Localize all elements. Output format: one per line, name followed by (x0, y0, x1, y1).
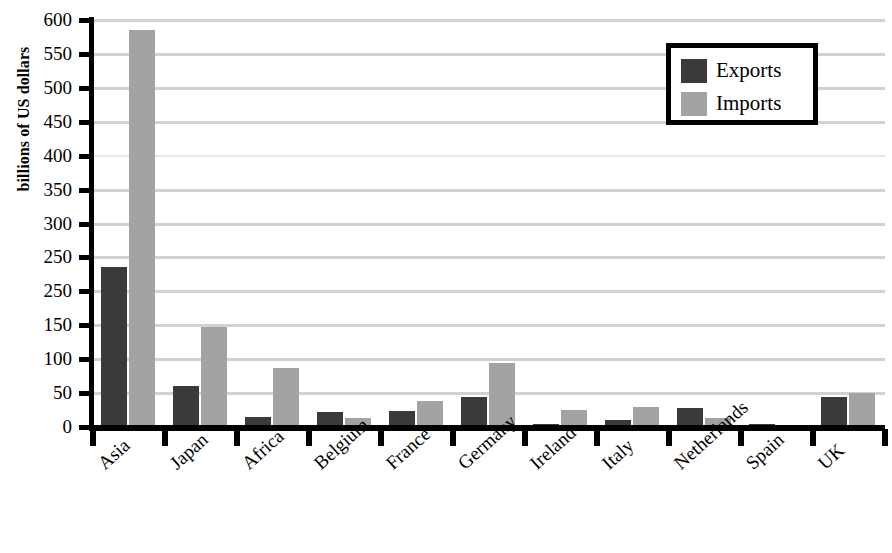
y-axis-tick-label: 500 (14, 78, 72, 97)
y-axis-tick-label: 350 (14, 180, 72, 199)
x-axis-tick (234, 429, 240, 446)
legend-label-imports: Imports (716, 93, 781, 114)
y-axis-tick-label: 100 (14, 349, 72, 368)
x-axis-tick (306, 429, 312, 446)
bar-asia-exports (101, 267, 127, 427)
x-axis-tick (810, 429, 816, 446)
x-axis-label-spain: Spain (742, 429, 789, 474)
bar-group (165, 20, 237, 427)
legend-swatch-exports-icon (681, 59, 707, 83)
x-axis-tick (594, 429, 600, 446)
bar-france-imports (417, 401, 443, 427)
bar-group (309, 20, 381, 427)
x-axis-tick (378, 429, 384, 446)
x-axis-tick (666, 429, 672, 446)
bar-germany-exports (461, 397, 487, 427)
x-axis-tick (90, 429, 96, 446)
y-axis-tick-label: 250 (14, 281, 72, 300)
x-axis-line (89, 425, 885, 431)
y-axis-tick-label: 450 (14, 112, 72, 131)
x-axis-tick (882, 429, 888, 446)
x-axis-tick (738, 429, 744, 446)
bar-group (453, 20, 525, 427)
bar-italy-imports (633, 407, 659, 427)
x-axis-label-italy: Italy (598, 435, 639, 475)
bar-group (525, 20, 597, 427)
legend-label-exports: Exports (716, 60, 781, 81)
y-axis-tick-label: 0 (14, 417, 72, 436)
y-axis-line (89, 17, 94, 430)
bar-group (381, 20, 453, 427)
x-axis-label-africa: Africa (238, 425, 289, 474)
y-axis-tick-label: 400 (14, 146, 72, 165)
x-axis-label-uk: UK (814, 439, 849, 474)
x-axis-tick (450, 429, 456, 446)
bar-group (813, 20, 885, 427)
bar-africa-imports (273, 368, 299, 427)
y-axis-tick-label: 550 (14, 44, 72, 63)
legend-swatch-imports-icon (681, 92, 707, 116)
x-axis-tick (162, 429, 168, 446)
legend-item-exports: Exports (681, 54, 813, 87)
bar-uk-exports (821, 397, 847, 427)
y-axis-tick-label: 150 (14, 315, 72, 334)
y-axis-tick-label: 300 (14, 214, 72, 233)
legend-item-imports: Imports (681, 87, 813, 120)
bar-chart: billions of US dollars 60055050045040035… (0, 0, 892, 553)
x-axis-label-asia: Asia (94, 435, 135, 475)
x-axis-tick (522, 429, 528, 446)
y-axis-tick-label: 50 (14, 383, 72, 402)
bar-japan-imports (201, 327, 227, 427)
bar-group (597, 20, 669, 427)
bar-uk-imports (849, 393, 875, 427)
x-axis-label-japan: Japan (166, 429, 213, 474)
bar-japan-exports (173, 386, 199, 427)
y-axis-tick-label: 600 (14, 10, 72, 29)
chart-legend: Exports Imports (666, 43, 818, 125)
y-axis-tick-label: 250 (14, 247, 72, 266)
bar-asia-imports (129, 30, 155, 427)
bar-group (237, 20, 309, 427)
bar-group (93, 20, 165, 427)
